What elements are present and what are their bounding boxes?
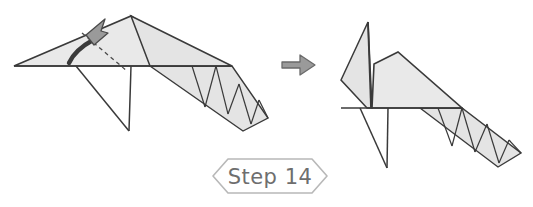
head-raised-after	[341, 22, 372, 108]
right-arrow-icon	[282, 55, 315, 75]
leg-front-after	[360, 108, 387, 168]
body-triangle-after	[372, 52, 462, 108]
step-banner-label: Step 14	[228, 165, 313, 189]
leg-rear-before	[129, 66, 131, 131]
figure-before-fold	[14, 16, 268, 131]
origami-step-diagram: Step 14	[0, 0, 533, 207]
step-banner: Step 14	[213, 159, 327, 193]
leg-rear-after	[387, 108, 388, 168]
tail-strip-zigzag-before	[150, 66, 268, 131]
diagram-page: Step 14	[0, 0, 533, 207]
tail-strip-zigzag-after	[420, 108, 521, 167]
leg-front-before	[76, 66, 129, 131]
figure-after-fold	[341, 22, 521, 168]
transition-arrow	[282, 55, 315, 75]
